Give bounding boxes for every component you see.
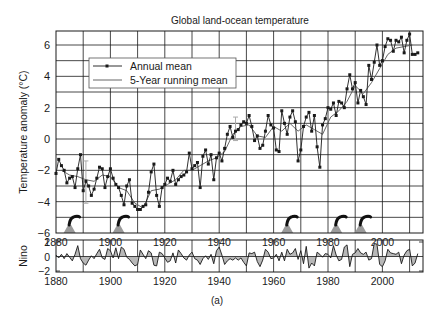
annual-mean-marker: [248, 114, 251, 117]
annual-mean-marker: [297, 159, 300, 162]
x-tick-label: 1960: [262, 275, 286, 287]
annual-mean-marker: [166, 177, 169, 180]
annual-mean-marker: [408, 33, 411, 36]
x-tick-label: 1920: [153, 275, 177, 287]
annual-mean-marker: [95, 177, 98, 180]
annual-mean-marker: [234, 130, 237, 133]
error-bars: [83, 117, 238, 203]
annual-mean-marker: [264, 130, 267, 133]
annual-mean-marker: [316, 145, 319, 148]
y-tick-label: 0: [44, 133, 50, 145]
annual-mean-marker: [106, 175, 109, 178]
annual-mean-marker: [324, 117, 327, 120]
annual-mean-marker: [321, 123, 324, 126]
annual-mean-marker: [63, 169, 66, 172]
annual-mean-marker: [356, 101, 359, 104]
annual-mean-marker: [253, 139, 256, 142]
annual-mean-marker: [180, 175, 183, 178]
annual-mean-marker: [199, 186, 202, 189]
annual-mean-marker: [250, 125, 253, 128]
annual-mean-marker: [87, 185, 90, 188]
annual-mean-marker: [74, 186, 77, 189]
annual-mean-marker: [389, 39, 392, 42]
y-tick-label: 2: [44, 102, 50, 114]
annual-mean-marker: [191, 167, 194, 170]
annual-mean-marker: [397, 40, 400, 43]
annual-mean-marker: [386, 37, 389, 40]
annual-mean-marker: [158, 205, 161, 208]
y-tick-label: 6: [44, 39, 50, 51]
annual-mean-marker: [218, 152, 221, 155]
annual-mean-marker: [272, 127, 275, 130]
nino-y-axis-label: Nino: [17, 245, 29, 267]
annual-mean-marker: [220, 159, 223, 162]
annual-mean-marker: [414, 53, 417, 56]
annual-mean-marker: [269, 123, 272, 126]
annual-mean-marker: [278, 150, 281, 153]
annual-mean-marker: [367, 64, 370, 67]
annual-mean-marker: [82, 189, 85, 192]
y-tick-label: 2: [44, 236, 50, 248]
annual-mean-marker: [117, 186, 120, 189]
annual-mean-marker: [98, 166, 101, 169]
annual-mean-marker: [416, 51, 419, 54]
annual-mean-marker: [139, 208, 142, 211]
annual-mean-marker: [313, 114, 316, 117]
annual-mean-marker: [307, 111, 310, 114]
x-tick-label: 1980: [316, 275, 340, 287]
annual-mean-marker: [365, 103, 368, 106]
y-tick-label: 0: [44, 251, 50, 263]
annual-mean-marker: [123, 203, 126, 206]
annual-mean-marker: [245, 122, 248, 125]
annual-mean-marker: [299, 148, 302, 151]
figure-caption: (a): [211, 295, 223, 306]
annual-mean-marker: [343, 106, 346, 109]
annual-mean-marker: [185, 170, 188, 173]
x-tick-label: 1900: [99, 275, 123, 287]
annual-mean-marker: [359, 89, 362, 92]
annual-mean-marker: [112, 177, 115, 180]
annual-mean-marker: [381, 59, 384, 62]
annual-mean-marker: [174, 183, 177, 186]
annual-mean-marker: [155, 194, 158, 197]
annual-mean-marker: [242, 120, 245, 123]
annual-mean-marker: [239, 123, 242, 126]
annual-mean-marker: [340, 101, 343, 104]
annual-mean-marker: [177, 178, 180, 181]
annual-mean-marker: [405, 39, 408, 42]
main-y-axis-label: Temperature anomaly (°C): [17, 70, 29, 193]
annual-mean-marker: [229, 125, 232, 128]
annual-mean-marker: [90, 194, 93, 197]
annual-mean-marker: [171, 169, 174, 172]
annual-mean-marker: [196, 161, 199, 164]
annual-mean-marker: [370, 78, 373, 81]
annual-mean-marker: [144, 203, 147, 206]
annual-mean-marker: [231, 136, 234, 139]
legend-annual-marker-icon: [106, 65, 109, 68]
annual-mean-marker: [337, 100, 340, 103]
annual-mean-marker: [169, 180, 172, 183]
volcano-icon: [355, 216, 371, 233]
annual-mean-marker: [101, 167, 104, 170]
volcano-icon: [113, 216, 129, 233]
annual-mean-marker: [256, 134, 259, 137]
annual-mean-marker: [215, 156, 218, 159]
annual-mean-marker: [259, 147, 262, 150]
annual-mean-marker: [76, 167, 79, 170]
annual-mean-marker: [403, 51, 406, 54]
x-tick-label: 1880: [44, 275, 68, 287]
annual-mean-marker: [133, 205, 136, 208]
annual-mean-marker: [68, 177, 71, 180]
annual-mean-marker: [362, 95, 365, 98]
annual-mean-marker: [378, 64, 381, 67]
annual-mean-marker: [142, 205, 145, 208]
y-tick-label: 4: [44, 70, 50, 82]
annual-mean-marker: [411, 53, 414, 56]
nino-x-tick-labels: 1880190019201940196019802000: [44, 275, 394, 287]
annual-mean-marker: [182, 174, 185, 177]
annual-mean-marker: [348, 73, 351, 76]
volcano-icon: [64, 216, 80, 233]
volcano-icon: [330, 216, 346, 233]
annual-mean-marker: [288, 116, 291, 119]
annual-mean-marker: [120, 194, 123, 197]
